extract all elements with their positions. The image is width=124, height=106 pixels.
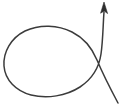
drawing-canvas [0,0,124,106]
looped-arrow-figure [0,0,124,106]
